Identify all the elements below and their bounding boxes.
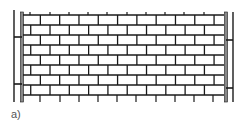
brick-wall-diagram <box>0 0 246 138</box>
brick-courses <box>23 15 224 95</box>
figure-label: a) <box>11 108 21 120</box>
columns <box>14 10 233 102</box>
